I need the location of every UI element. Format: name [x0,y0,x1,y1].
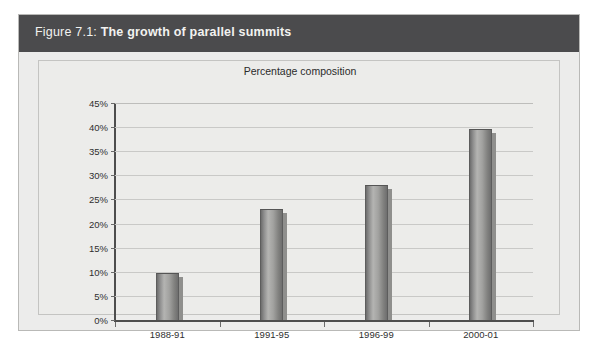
x-axis-category-label: 1996-99 [359,329,394,340]
x-axis-tick-mark [115,322,116,327]
y-axis-tick-label: 45% [89,98,108,109]
y-axis-tick-mark [111,175,115,176]
figure-box: Figure 7.1: The growth of parallel summi… [18,14,580,331]
x-axis-category-label: 1991-95 [254,329,289,340]
y-axis-tick-mark [111,127,115,128]
figure-caption-main: The growth of parallel summits [101,25,292,39]
figure-caption-prefix: Figure 7.1: [35,25,97,39]
y-axis-tick-label: 35% [89,146,108,157]
figure-root: Figure 7.1: The growth of parallel summi… [0,0,596,346]
gridline [115,103,533,104]
y-axis-tick-label: 20% [89,218,108,229]
bar [365,185,388,320]
y-axis-line [114,103,116,321]
chart-panel: Percentage composition 0%5%10%15%20%25%3… [38,60,560,315]
y-axis-tick-mark [111,151,115,152]
x-axis-tick-mark [324,322,325,327]
figure-caption-text: Figure 7.1: The growth of parallel summi… [35,25,291,39]
y-axis-tick-label: 5% [94,290,108,301]
x-axis-tick-mark [533,322,534,327]
y-axis-tick-mark [111,320,115,321]
y-axis-tick-mark [111,248,115,249]
y-axis-tick-label: 40% [89,122,108,133]
y-axis-tick-mark [111,272,115,273]
figure-caption-bar: Figure 7.1: The growth of parallel summi… [19,15,579,52]
x-axis-tick-mark [429,322,430,327]
y-axis-tick-label: 0% [94,315,108,326]
bar [156,273,179,320]
y-axis-tick-label: 10% [89,266,108,277]
x-axis-category-label: 1988-91 [150,329,185,340]
x-axis-tick-mark [220,322,221,327]
bar [469,129,492,320]
bar [260,209,283,320]
y-axis-tick-mark [111,296,115,297]
y-axis-tick-mark [111,199,115,200]
y-axis-tick-mark [111,224,115,225]
x-axis-category-label: 2000-01 [463,329,498,340]
y-axis-tick-mark [111,103,115,104]
y-axis-tick-label: 15% [89,242,108,253]
gridline [115,127,533,128]
y-axis-tick-label: 30% [89,170,108,181]
y-axis-tick-label: 25% [89,194,108,205]
chart-title: Percentage composition [39,65,561,77]
plot-area: 0%5%10%15%20%25%30%35%40%45%1988-911991-… [115,103,533,320]
